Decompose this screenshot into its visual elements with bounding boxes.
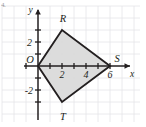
vertex-label-t: T [60, 111, 67, 122]
coordinate-plane-figure: 4. [0, 0, 146, 127]
x-axis-label: x [129, 69, 135, 79]
x-tick-label-6: 6 [108, 69, 113, 80]
vertex-label-s: S [114, 53, 120, 64]
x-axis-arrow [125, 63, 131, 69]
graph-canvas: 2 4 6 2 -2 x y O R S T [0, 0, 146, 127]
origin-label: O [26, 54, 34, 65]
y-axis-label: y [27, 5, 33, 15]
y-axis-arrow [35, 9, 41, 15]
problem-number-mark: 4. [1, 1, 5, 9]
x-tick-label-4: 4 [84, 69, 89, 80]
y-tick-label-2: 2 [27, 37, 32, 48]
x-tick-label-2: 2 [60, 69, 65, 80]
y-tick-label-neg2: -2 [25, 85, 33, 96]
vertex-label-r: R [59, 13, 67, 24]
